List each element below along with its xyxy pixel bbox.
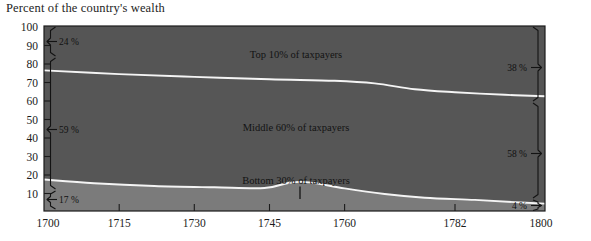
y-tick-label: 80 <box>27 58 39 70</box>
x-tick-label: 1715 <box>108 217 131 229</box>
series-label-middle: Middle 60% of taxpayers <box>243 122 349 133</box>
annotation-right-top: 38 % <box>507 63 527 73</box>
series-label-bottom: Bottom 30% of taxpayers <box>242 175 350 186</box>
chart-canvas: 100 90 80 70 60 50 40 30 20 10 <box>0 0 591 241</box>
x-tick-label: 1782 <box>444 217 467 229</box>
y-tick-label: 60 <box>27 95 39 107</box>
annotation-right-middle: 58 % <box>507 149 527 159</box>
y-tick-label: 90 <box>27 40 39 52</box>
annotation-left-bottom: 17 % <box>59 195 79 205</box>
x-tick-label: 1730 <box>183 217 206 229</box>
annotation-right-bottom: 4 % <box>512 201 527 211</box>
annotation-left-middle: 59 % <box>59 125 79 135</box>
y-tick-label: 70 <box>27 77 39 89</box>
x-tick-label: 1700 <box>37 217 60 229</box>
x-tick-label: 1800 <box>530 217 553 229</box>
y-tick-label: 100 <box>21 21 39 33</box>
annotation-left-top: 24 % <box>59 37 79 47</box>
y-tick-label: 40 <box>27 132 39 144</box>
y-tick-label: 10 <box>27 188 39 200</box>
series-label-top: Top 10% of taxpayers <box>250 49 342 60</box>
y-tick-label: 20 <box>27 169 39 181</box>
x-tick-label: 1760 <box>333 217 356 229</box>
x-tick-label: 1745 <box>258 217 281 229</box>
y-tick-label: 50 <box>27 114 39 126</box>
wealth-distribution-chart: Percent of the country's wealth 100 90 8… <box>0 0 591 241</box>
y-tick-label: 30 <box>27 151 39 163</box>
